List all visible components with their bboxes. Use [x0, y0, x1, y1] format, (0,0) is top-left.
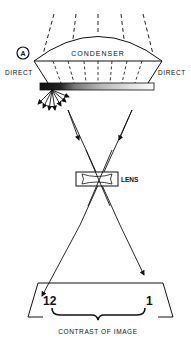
image-value-left: 12	[43, 294, 57, 308]
lens-label: LENS	[121, 176, 139, 183]
condenser-label: CONDENSER	[71, 50, 125, 57]
condensed-light-rays	[53, 61, 142, 83]
optics-diagram: CONDENSER A DIRECT DIRECT	[0, 0, 191, 340]
specimen-slide	[40, 83, 154, 90]
caption-contrast-of-image: CONTRAST OF IMAGE	[58, 328, 137, 335]
direct-rays	[42, 110, 144, 296]
scattered-rays	[38, 90, 69, 110]
direct-right-label: DIRECT	[158, 69, 186, 76]
image-value-right: 1	[146, 294, 153, 308]
svg-text:A: A	[20, 50, 25, 57]
direct-left-label: DIRECT	[5, 69, 33, 76]
panel-label-a: A	[17, 47, 29, 59]
contrast-brace	[52, 308, 145, 320]
condenser-lens: CONDENSER	[34, 37, 162, 62]
